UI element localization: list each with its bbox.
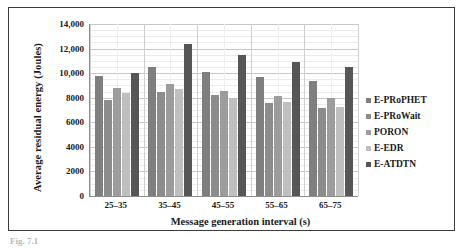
- y-tick-label: 0: [80, 191, 85, 201]
- bar[interactable]: [309, 81, 317, 196]
- bar[interactable]: [122, 93, 130, 196]
- bar[interactable]: [157, 92, 165, 196]
- bar[interactable]: [238, 55, 246, 196]
- category-separator: [358, 24, 359, 196]
- legend-label: PORON: [374, 127, 408, 137]
- bar[interactable]: [113, 88, 121, 196]
- figure-caption-fragment: Fig. 7.1: [10, 236, 38, 246]
- legend-swatch-icon: [366, 98, 371, 103]
- figure-frame: Average residual energy (Joules) 0200040…: [8, 7, 455, 231]
- x-axis-tick-labels: 25–3535–4545–5555–6565–75: [89, 200, 357, 210]
- bar[interactable]: [336, 107, 344, 196]
- legend-item[interactable]: E-PRoWait: [366, 108, 462, 124]
- legend-label: E-ATDTN: [374, 159, 416, 169]
- bar[interactable]: [283, 102, 291, 196]
- legend-item[interactable]: PORON: [366, 124, 462, 140]
- y-tick-label: 14,000: [59, 19, 84, 29]
- bar[interactable]: [202, 72, 210, 196]
- bar-group: [144, 24, 198, 196]
- bar-groups: [90, 24, 358, 196]
- bar-group: [304, 24, 358, 196]
- y-tick-label: 8000: [66, 93, 84, 103]
- y-tick-label: 12,000: [59, 44, 84, 54]
- figure-container: Average residual energy (Joules) 0200040…: [0, 0, 465, 251]
- x-tick-label: 65–75: [303, 200, 357, 210]
- bar[interactable]: [292, 62, 300, 196]
- bar[interactable]: [184, 44, 192, 196]
- bar-group: [251, 24, 305, 196]
- x-axis-title: Message generation interval (s): [17, 216, 464, 227]
- x-tick-label: 35–45: [143, 200, 197, 210]
- y-tick-label: 2000: [66, 166, 84, 176]
- y-axis-tick-labels: 0200040006000800010,00012,00014,000: [43, 24, 87, 196]
- legend-item[interactable]: E-PRoPHET: [366, 92, 462, 108]
- plot-area: [89, 24, 358, 197]
- legend-swatch-icon: [366, 146, 371, 151]
- bar[interactable]: [104, 100, 112, 196]
- y-tick-label: 10,000: [59, 68, 84, 78]
- y-tick-label: 6000: [66, 117, 84, 127]
- y-tick-label: 4000: [66, 142, 84, 152]
- bar[interactable]: [345, 67, 353, 196]
- legend-swatch-icon: [366, 130, 371, 135]
- bar[interactable]: [131, 73, 139, 196]
- chart-legend: E-PRoPHETE-PRoWaitPORONE-EDRE-ATDTN: [366, 92, 462, 172]
- bar[interactable]: [95, 76, 103, 196]
- bar-group: [90, 24, 144, 196]
- bar[interactable]: [265, 103, 273, 196]
- bar[interactable]: [148, 67, 156, 196]
- y-axis-title: Average residual energy (Joules): [32, 28, 43, 208]
- bar[interactable]: [318, 108, 326, 196]
- legend-label: E-PRoWait: [374, 111, 420, 121]
- legend-swatch-icon: [366, 162, 371, 167]
- x-tick-label: 55–65: [250, 200, 304, 210]
- bar[interactable]: [256, 77, 264, 196]
- bar[interactable]: [220, 91, 228, 196]
- bar[interactable]: [229, 98, 237, 196]
- x-tick-label: 25–35: [89, 200, 143, 210]
- legend-item[interactable]: E-EDR: [366, 140, 462, 156]
- legend-label: E-EDR: [374, 143, 404, 153]
- bar[interactable]: [166, 84, 174, 196]
- legend-label: E-PRoPHET: [374, 95, 427, 105]
- bar[interactable]: [327, 98, 335, 196]
- x-tick-label: 45–55: [196, 200, 250, 210]
- legend-swatch-icon: [366, 114, 371, 119]
- bar[interactable]: [274, 96, 282, 196]
- legend-item[interactable]: E-ATDTN: [366, 156, 462, 172]
- bar[interactable]: [211, 95, 219, 196]
- bar-group: [197, 24, 251, 196]
- bar[interactable]: [175, 89, 183, 196]
